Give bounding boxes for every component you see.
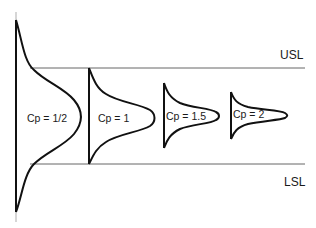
curve-cp-2: Cp = 2 — [231, 92, 287, 139]
lsl-label: LSL — [284, 175, 306, 189]
curve-label: Cp = 1/2 — [27, 112, 67, 124]
curve-cp-1: Cp = 1 — [89, 68, 155, 164]
curve-cp-1.5: Cp = 1.5 — [164, 83, 219, 148]
curve-label: Cp = 2 — [233, 108, 264, 120]
cp-diagram: Cp = 1/2 Cp = 1 Cp = 1.5 Cp = 2 USL LSL — [0, 0, 316, 228]
curve-label: Cp = 1.5 — [166, 110, 206, 122]
curve-cp-0.5: Cp = 1/2 — [16, 12, 81, 222]
curve-label: Cp = 1 — [98, 112, 129, 124]
usl-label: USL — [280, 48, 304, 62]
